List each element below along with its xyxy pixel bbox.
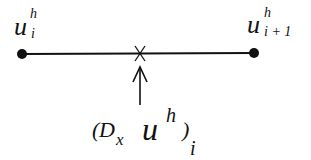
operator-d: D bbox=[98, 117, 115, 142]
left-node-dot bbox=[17, 49, 27, 59]
operator-sub-x: x bbox=[115, 130, 124, 149]
result-sup-h: h bbox=[166, 104, 176, 126]
result-base-u: u bbox=[142, 111, 158, 147]
right-label-sub: i + 1 bbox=[264, 24, 291, 39]
left-node-label: u h i bbox=[14, 6, 37, 41]
right-node-dot bbox=[249, 48, 259, 58]
stencil-diagram: u h i u h i + 1 ( D x u h ) i bbox=[0, 0, 311, 160]
close-paren: ) bbox=[180, 117, 189, 142]
right-label-sup: h bbox=[264, 5, 271, 20]
left-label-sub: i bbox=[31, 26, 35, 41]
grid-segment-line bbox=[22, 53, 254, 54]
right-label-base: u bbox=[247, 10, 260, 39]
arrow-up-icon bbox=[133, 67, 147, 105]
left-label-sup: h bbox=[30, 6, 37, 21]
outer-sub-i: i bbox=[190, 137, 196, 159]
left-label-base: u bbox=[14, 12, 27, 41]
right-node-label: u h i + 1 bbox=[247, 5, 291, 39]
derivative-label: ( D x u h ) i bbox=[92, 104, 196, 159]
